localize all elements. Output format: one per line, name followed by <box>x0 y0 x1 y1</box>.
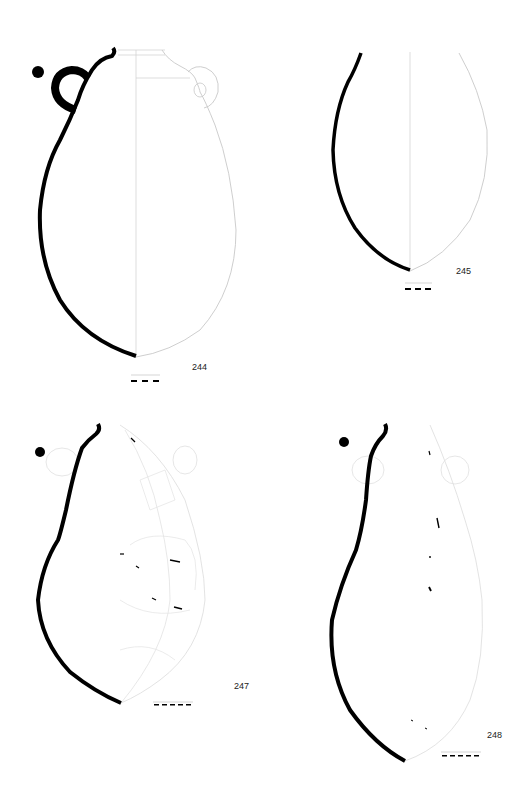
catalog-number-245: 245 <box>456 266 471 276</box>
scale-bar-247 <box>153 702 193 706</box>
plate-drawing <box>0 0 524 802</box>
scale-bar-244 <box>131 375 160 382</box>
scale-bar-248 <box>441 752 481 757</box>
scale-bar-245 <box>405 283 432 290</box>
vessel-247 <box>35 424 205 703</box>
handle-section-dot <box>339 437 349 447</box>
handle-section-dot <box>35 447 45 457</box>
pottery-plate: 244 245 247 248 <box>0 0 524 802</box>
catalog-number-244: 244 <box>192 362 207 372</box>
vessel-244 <box>32 48 236 357</box>
catalog-number-247: 247 <box>234 681 249 691</box>
handle-section-dot <box>32 66 44 78</box>
catalog-number-248: 248 <box>487 730 502 740</box>
vessel-248 <box>331 424 482 761</box>
vessel-245 <box>333 52 487 271</box>
